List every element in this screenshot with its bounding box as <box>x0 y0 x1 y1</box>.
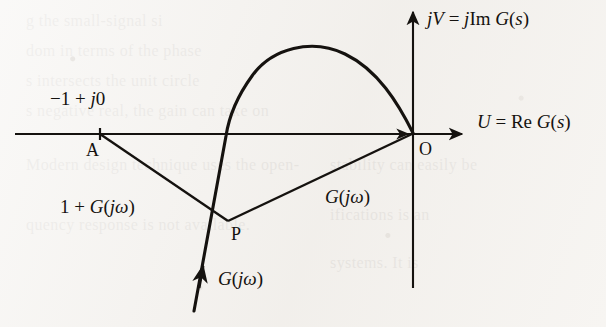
locus-arrow-at-p <box>219 188 225 214</box>
vector-label-g-jw-locus: G(jω) <box>218 268 263 290</box>
origin-label: O <box>419 139 432 160</box>
imaginary-axis-label: jV = jIm G(s) <box>427 8 529 30</box>
nyquist-figure: g the small-signal si dom in terms of th… <box>0 0 606 327</box>
vector-label-one-plus-g: 1 + G(jω) <box>60 196 135 218</box>
nyquist-plot-canvas <box>0 0 606 327</box>
vector-label-g-jw-origin: G(jω) <box>325 186 370 208</box>
point-a-label: A <box>86 140 99 161</box>
point-p-label: P <box>231 224 241 245</box>
locus-direction-arrow <box>199 266 203 288</box>
real-axis-label: U = Re G(s) <box>477 111 571 133</box>
critical-point-label: −1 + j0 <box>50 88 105 110</box>
vector-g-jw <box>228 134 412 221</box>
real-axis <box>15 128 462 140</box>
